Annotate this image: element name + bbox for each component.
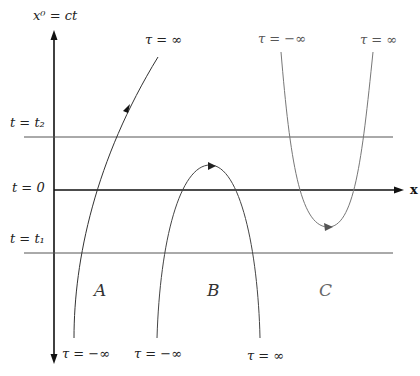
worldline-c-arrow-icon xyxy=(324,223,333,231)
c-end-label: τ = ∞ xyxy=(360,32,397,47)
region-b-label: B xyxy=(206,280,220,300)
worldline-a xyxy=(74,57,158,338)
label-t0: t = 0 xyxy=(12,180,45,195)
a-start-label: τ = −∞ xyxy=(62,346,110,361)
region-c-label: C xyxy=(319,280,332,300)
label-t1: t = t₁ xyxy=(10,231,45,246)
time-axis-arrow-down-icon xyxy=(51,354,58,364)
spacetime-diagram: x⁰ = ct x t = t₂ t = 0 t = t₁ τ = ∞ τ = … xyxy=(0,0,420,376)
vertical-axis-label: x⁰ = ct xyxy=(33,8,78,23)
worldline-a-arrow-icon xyxy=(123,104,130,113)
b-end-label: τ = ∞ xyxy=(247,348,284,363)
worldline-b xyxy=(157,165,260,338)
horizontal-axis-label: x xyxy=(410,182,418,197)
worldline-b-arrow-icon xyxy=(208,162,216,170)
time-axis-arrow-up-icon xyxy=(51,30,58,40)
label-t2: t = t₂ xyxy=(10,115,45,130)
c-start-label: τ = −∞ xyxy=(258,31,306,46)
worldline-c xyxy=(281,52,373,227)
a-end-label: τ = ∞ xyxy=(145,32,182,47)
b-start-label: τ = −∞ xyxy=(134,346,182,361)
x-axis-arrow-icon xyxy=(394,187,404,194)
region-a-label: A xyxy=(92,280,106,300)
